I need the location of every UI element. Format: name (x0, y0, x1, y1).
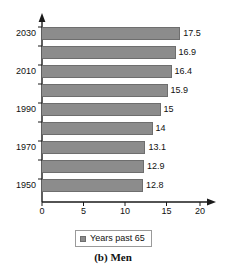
y-category-label: 1970 (16, 141, 36, 154)
bar-2000 (42, 84, 168, 97)
y-category-label: 2030 (16, 27, 36, 40)
x-axis-tick-labels: 0 5 10 15 20 (0, 205, 226, 219)
bar-value-label: 12.9 (147, 160, 165, 173)
bar-1950 (42, 179, 143, 192)
bar-value-label: 13.1 (148, 141, 166, 154)
plot-area: 2030 2010 1990 1970 1950 17.5 16.9 16.4 (0, 0, 226, 218)
bar-2020 (42, 46, 176, 59)
bar-chart-figure: 2030 2010 1990 1970 1950 17.5 16.9 16.4 (0, 0, 226, 272)
x-tick-label: 20 (195, 205, 205, 217)
x-tick-label: 10 (120, 205, 130, 217)
bar-value-label: 15.9 (171, 84, 189, 97)
x-tick-label: 15 (161, 205, 171, 217)
y-category-label: 1990 (16, 103, 36, 116)
x-tick-label: 0 (39, 205, 44, 217)
bar-value-label: 14 (156, 122, 166, 135)
bar-1970 (42, 141, 145, 154)
y-category-label: 1950 (16, 179, 36, 192)
bar-1980 (42, 122, 153, 135)
bar-1960 (42, 160, 144, 173)
y-axis-arrowhead (39, 13, 46, 22)
y-category-label: 2010 (16, 65, 36, 78)
figure-caption: (b) Men (0, 251, 226, 263)
bar-value-label: 17.5 (183, 27, 201, 40)
legend-entry-label: Years past 65 (90, 233, 145, 244)
bar-1990 (42, 103, 161, 116)
bar-value-label: 16.4 (175, 65, 193, 78)
legend-swatch-icon (80, 236, 86, 242)
bar-value-label: 15 (164, 103, 174, 116)
chart-legend: Years past 65 (75, 230, 152, 247)
bar-2030 (42, 27, 180, 40)
bar-value-label: 12.8 (146, 179, 164, 192)
bar-2010 (42, 65, 172, 78)
bar-value-label: 16.9 (179, 46, 197, 59)
x-tick-label: 5 (81, 205, 86, 217)
bars-group: 17.5 16.9 16.4 15.9 15 14 (42, 27, 226, 202)
y-axis-category-labels: 2030 2010 1990 1970 1950 (0, 27, 40, 202)
